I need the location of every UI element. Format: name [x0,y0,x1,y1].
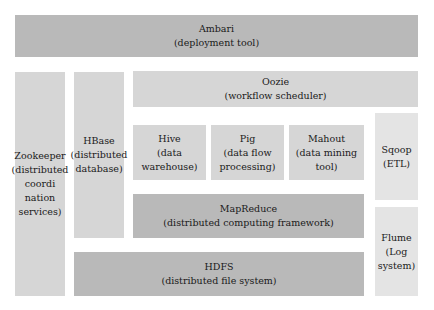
oozie-box: Oozie (workflow scheduler) [133,71,418,107]
zookeeper-name: Zookeeper [14,149,65,163]
oozie-name: Oozie [262,75,289,89]
flume-box: Flume (Log system) [375,207,418,296]
mahout-desc: (data mining tool) [289,146,364,174]
flume-name: Flume [381,231,411,245]
hbase-desc-2: database) [75,162,122,176]
hbase-desc-1: (distributed [71,148,128,162]
hdfs-box: HDFS (distributed file system) [74,252,364,296]
hive-name: Hive [158,132,180,146]
flume-desc-2: system) [378,259,415,273]
mapreduce-name: MapReduce [220,202,277,216]
zookeeper-desc-4: services) [19,205,62,219]
mahout-box: Mahout (data mining tool) [289,125,364,180]
hdfs-desc: (distributed file system) [161,274,276,288]
mapreduce-desc: (distributed computing framework) [163,216,333,230]
pig-desc-1: (data flow [223,146,271,160]
mapreduce-box: MapReduce (distributed computing framewo… [133,194,364,238]
sqoop-desc: (ETL) [383,157,410,171]
ambari-name: Ambari [199,22,234,36]
zookeeper-desc-3: nation [25,191,55,205]
ambari-desc: (deployment tool) [174,36,259,50]
zookeeper-desc-1: (distributed [12,163,69,177]
zookeeper-box: Zookeeper (distributed coordi nation ser… [15,72,65,296]
hdfs-name: HDFS [204,260,233,274]
sqoop-name: Sqoop [381,143,411,157]
pig-desc-2: processing) [220,160,276,174]
flume-desc-1: (Log [386,245,408,259]
sqoop-box: Sqoop (ETL) [375,113,418,200]
mahout-name: Mahout [308,132,345,146]
hbase-name: HBase [83,134,114,148]
hive-desc: (data warehouse) [133,146,206,174]
pig-name: Pig [240,132,256,146]
ambari-box: Ambari (deployment tool) [15,15,418,57]
zookeeper-desc-2: coordi [25,177,55,191]
hive-box: Hive (data warehouse) [133,125,206,180]
hbase-box: HBase (distributed database) [74,72,124,238]
oozie-desc: (workflow scheduler) [224,89,326,103]
pig-box: Pig (data flow processing) [211,125,284,180]
